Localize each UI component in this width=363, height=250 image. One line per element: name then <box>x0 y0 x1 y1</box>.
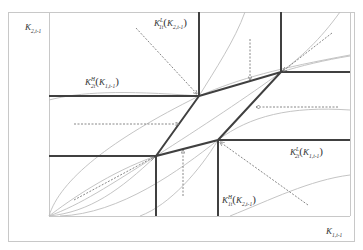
arrow-bottom-left <box>74 157 154 200</box>
y-axis-label: K2,t-1 <box>25 23 41 34</box>
curve-label-right: KL2t(K1,t-1) <box>290 146 323 159</box>
arrow-top-right <box>283 33 332 71</box>
arrow-top-left <box>136 28 197 94</box>
x-axis-label: K1,t-1 <box>326 227 342 238</box>
phase-diagram <box>0 0 363 250</box>
curve-label-left: KH2t(K1,t-1) <box>85 76 119 89</box>
curve-label-bottom: KH1t(K2,t-1) <box>222 194 256 207</box>
dynamics-arrows <box>74 28 338 205</box>
curve-label-top: KL1t(K2,t-1) <box>154 17 187 30</box>
